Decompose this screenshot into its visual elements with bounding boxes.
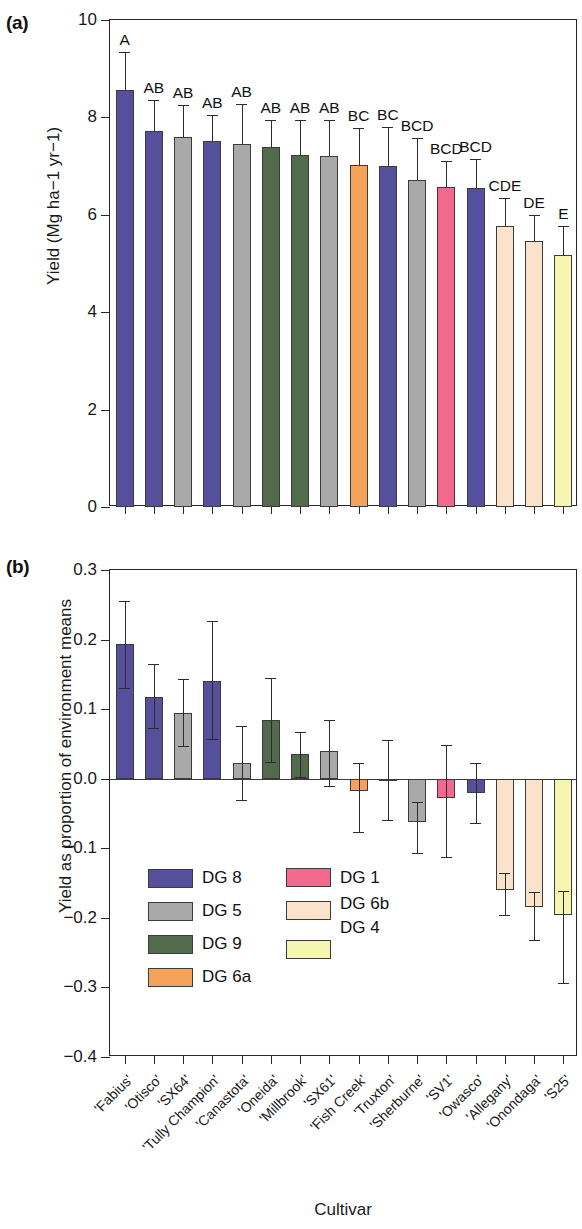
error-bar xyxy=(212,115,213,141)
significance-letter: BCD xyxy=(459,138,492,156)
error-bar xyxy=(534,215,535,241)
significance-letter: AB xyxy=(144,79,165,97)
error-bar-cap xyxy=(265,762,276,763)
significance-letter: AB xyxy=(202,94,223,112)
error-bar-cap xyxy=(148,728,159,729)
error-bar-cap xyxy=(178,746,189,747)
x-axis-tick xyxy=(359,1055,360,1064)
bar xyxy=(379,166,397,507)
error-bar-cap xyxy=(499,198,510,199)
error-bar xyxy=(563,226,564,255)
bar xyxy=(116,90,134,507)
y-axis-tick-label: −0.2 xyxy=(63,908,97,928)
panel-a-plot-area: 0246810AABABABABABABABBCBCBCDBCDBCDCDEDE… xyxy=(109,19,577,506)
error-bar xyxy=(329,720,330,786)
error-bar-cap xyxy=(558,891,569,892)
legend-label: DG 4 xyxy=(340,918,380,938)
error-bar xyxy=(212,621,213,739)
legend-label: DG 5 xyxy=(202,901,242,921)
error-bar-cap xyxy=(178,679,189,680)
y-axis-tick xyxy=(101,848,110,849)
error-bar xyxy=(271,678,272,762)
significance-letter: AB xyxy=(290,99,311,117)
legend-item: DG 5 xyxy=(148,901,242,921)
legend-label: DG 1 xyxy=(340,868,380,888)
error-bar xyxy=(183,105,184,137)
legend-item xyxy=(286,901,331,920)
error-bar-cap xyxy=(470,823,481,824)
error-bar-cap xyxy=(148,100,159,101)
x-axis-tick xyxy=(125,1055,126,1064)
bar xyxy=(525,241,543,507)
y-axis-tick-label: 0.3 xyxy=(73,560,97,580)
significance-letter: AB xyxy=(231,83,252,101)
y-axis-tick xyxy=(101,117,110,118)
y-axis-tick xyxy=(101,779,110,780)
error-bar xyxy=(534,892,535,940)
error-bar xyxy=(505,198,506,226)
x-axis-tick xyxy=(388,1055,389,1064)
bar xyxy=(350,165,368,507)
legend-swatch xyxy=(148,968,193,987)
bar xyxy=(174,137,192,507)
legend-swatch xyxy=(286,868,331,887)
error-bar xyxy=(125,601,126,688)
bar xyxy=(262,147,280,507)
legend-swatch xyxy=(286,940,331,959)
y-axis-tick-label: 6 xyxy=(88,205,97,225)
panel-a-y-axis-label: Yield (Mg ha−1 yr−1) xyxy=(44,56,64,356)
error-bar-cap xyxy=(558,226,569,227)
significance-letter: BC xyxy=(377,106,399,124)
x-axis-tick xyxy=(476,1055,477,1064)
x-axis-tick xyxy=(563,1055,564,1064)
error-bar xyxy=(446,161,447,186)
error-bar-cap xyxy=(236,800,247,801)
error-bar xyxy=(271,120,272,147)
panel-b-tag: (b) xyxy=(6,556,29,578)
error-bar-cap xyxy=(207,115,218,116)
bar xyxy=(467,188,485,507)
error-bar-cap xyxy=(412,802,423,803)
significance-letter: A xyxy=(119,31,129,49)
legend-swatch xyxy=(286,901,331,920)
error-bar xyxy=(242,726,243,800)
error-bar-cap xyxy=(441,857,452,858)
significance-letter: BCD xyxy=(401,117,434,135)
significance-letter: BC xyxy=(348,107,370,125)
error-bar-cap xyxy=(324,786,335,787)
legend-swatch xyxy=(148,902,193,921)
legend-swatch xyxy=(148,935,193,954)
legend-label: DG 9 xyxy=(202,934,242,954)
error-bar-cap xyxy=(382,740,393,741)
error-bar xyxy=(125,52,126,90)
x-axis-tick xyxy=(212,1055,213,1064)
bar xyxy=(203,141,221,507)
error-bar-cap xyxy=(470,159,481,160)
y-axis-tick-label: 4 xyxy=(88,302,97,322)
significance-letter: CDE xyxy=(489,177,522,195)
y-axis-tick-label: −0.1 xyxy=(63,838,97,858)
error-bar xyxy=(446,745,447,857)
error-bar xyxy=(417,138,418,180)
significance-letter: AB xyxy=(261,99,282,117)
error-bar-cap xyxy=(412,853,423,854)
legend-label: DG 6b xyxy=(340,894,389,914)
error-bar-cap xyxy=(353,763,364,764)
error-bar-cap xyxy=(207,621,218,622)
error-bar-cap xyxy=(236,104,247,105)
bar xyxy=(554,255,572,507)
error-bar xyxy=(154,100,155,131)
x-axis-tick xyxy=(417,1055,418,1064)
error-bar xyxy=(359,763,360,832)
error-bar-cap xyxy=(529,215,540,216)
error-bar-cap xyxy=(265,120,276,121)
error-bar-cap xyxy=(295,777,306,778)
y-axis-tick xyxy=(101,215,110,216)
error-bar-cap xyxy=(441,745,452,746)
y-axis-tick xyxy=(101,312,110,313)
error-bar-cap xyxy=(207,739,218,740)
significance-letter: E xyxy=(558,205,568,223)
error-bar-cap xyxy=(529,892,540,893)
error-bar-cap xyxy=(353,128,364,129)
error-bar-cap xyxy=(148,664,159,665)
